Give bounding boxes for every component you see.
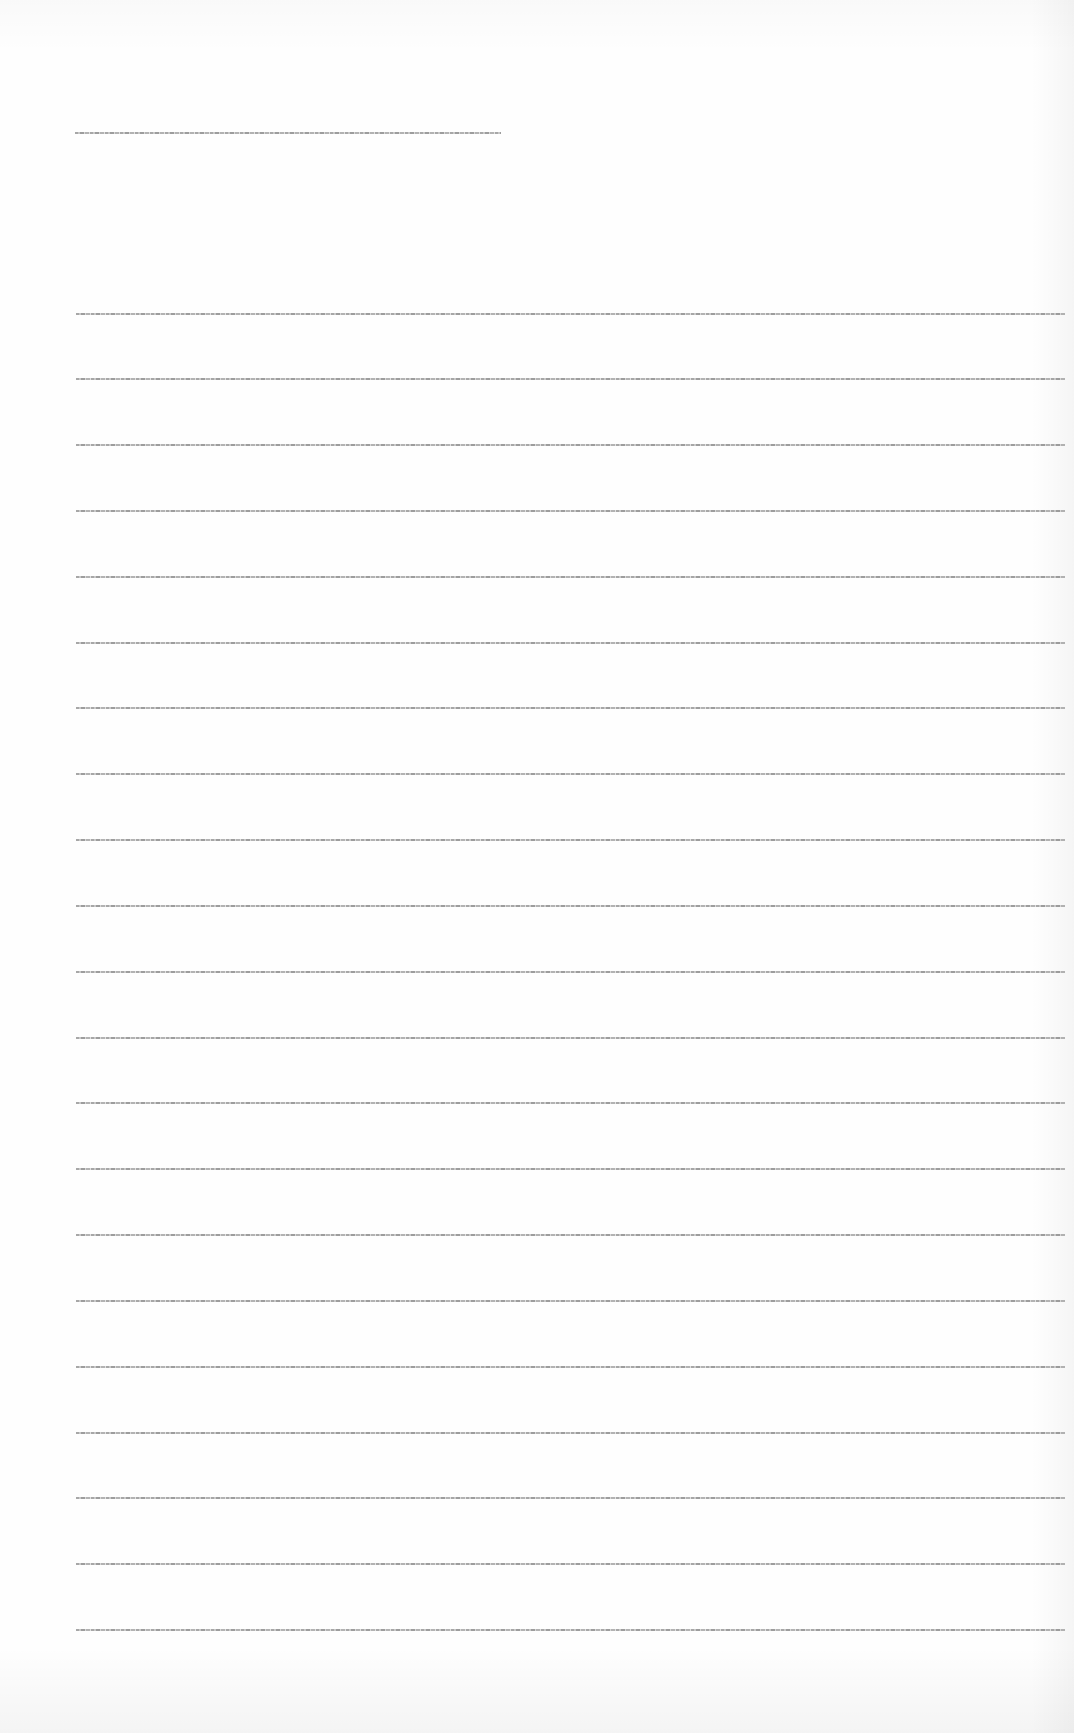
body-text-line — [76, 1037, 1065, 1039]
body-text-line — [76, 971, 1065, 973]
body-text-line — [76, 1234, 1065, 1236]
body-text-line — [76, 1432, 1065, 1434]
body-text-line — [76, 313, 1065, 315]
body-text-line — [76, 510, 1065, 512]
body-text-line — [76, 1102, 1065, 1104]
body-text-line — [76, 1168, 1065, 1170]
body-text-line — [76, 378, 1065, 380]
body-text-line — [76, 1563, 1065, 1565]
body-text-line — [76, 1366, 1065, 1368]
body-text-line — [76, 1300, 1065, 1302]
body-text-line — [76, 642, 1065, 644]
body-text-line — [76, 576, 1065, 578]
body-text-line — [76, 444, 1065, 446]
body-text-line — [76, 707, 1065, 709]
document-page — [0, 0, 1074, 1733]
body-text-line — [76, 1497, 1065, 1499]
body-text-line — [76, 773, 1065, 775]
document-heading-line — [75, 132, 501, 134]
body-text-line — [76, 1629, 1065, 1631]
body-text-line — [76, 839, 1065, 841]
body-text-line — [76, 905, 1065, 907]
